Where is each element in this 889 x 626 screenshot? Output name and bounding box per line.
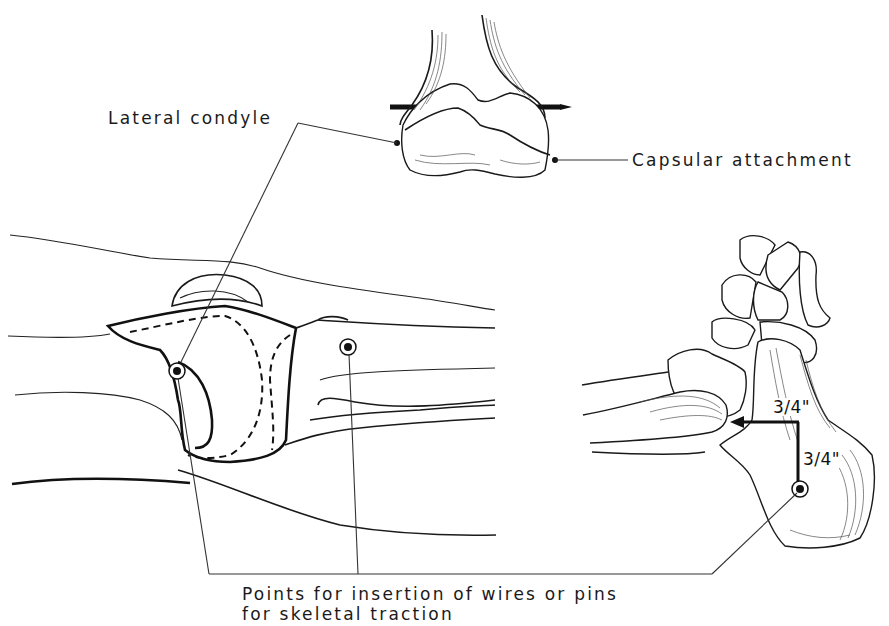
fibula <box>310 405 495 420</box>
knee-lateral-illustration <box>8 235 496 535</box>
measurement-horizontal-label: 3/4" <box>772 398 811 416</box>
label-insertion-points-line2: for skeletal traction <box>242 604 454 624</box>
tibia-bottom <box>285 418 495 445</box>
leader-lateral-condyle-to-knee <box>181 123 298 362</box>
label-capsular-attachment: Capsular attachment <box>632 150 853 170</box>
tibia-distal-top <box>582 372 668 385</box>
leader-lateral-condyle <box>298 123 397 143</box>
distal-femur-illustration <box>390 15 572 177</box>
patella <box>172 275 262 306</box>
metatarsal-5 <box>799 252 830 327</box>
leader-tibia-pin-to-baseline <box>349 354 358 574</box>
measurement-vertical-label: 3/4" <box>802 450 841 468</box>
foot-lateral-illustration <box>582 236 874 548</box>
calcaneus-pin-site <box>792 481 808 497</box>
leader-lines <box>178 123 797 574</box>
calf-outline <box>178 470 496 535</box>
tibial-plateau-dashed <box>130 316 262 458</box>
tibial-tubercle-pin-site <box>340 339 356 355</box>
skeletal-traction-diagram <box>0 0 889 626</box>
femur-shaft-bottom <box>15 392 182 440</box>
thigh-outline-top <box>10 235 495 310</box>
tibia-lower <box>318 398 495 406</box>
femur-pin-tip <box>560 104 572 110</box>
leg-outline-top <box>318 320 495 328</box>
measurement-arrowhead <box>730 416 744 428</box>
femoral-condyle-pin-site <box>169 363 185 379</box>
femur-shaft-top <box>8 334 110 337</box>
cuneiform-1 <box>722 275 756 318</box>
navicular <box>712 318 755 348</box>
thigh-outline-bottom <box>12 479 190 484</box>
tibial-tubercle <box>296 317 348 328</box>
leader-knee-pin-to-baseline <box>178 378 209 574</box>
label-insertion-points-line1: Points for insertion of wires or pins <box>242 584 618 604</box>
label-lateral-condyle: Lateral condyle <box>108 108 272 128</box>
fibula-head <box>320 368 495 380</box>
tibia-distal-bottom <box>592 452 705 454</box>
